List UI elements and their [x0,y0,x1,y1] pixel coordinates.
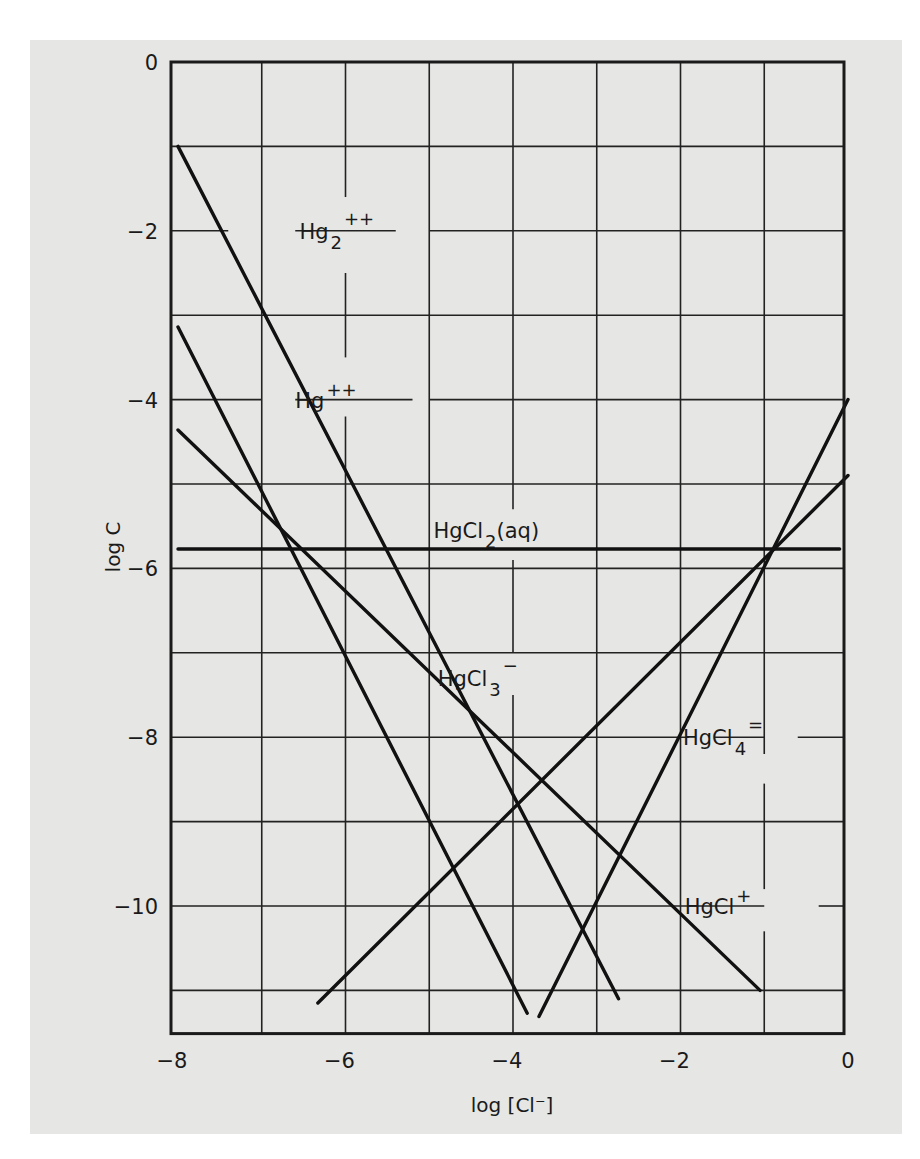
x-tick-label: −2 [659,1049,690,1073]
y-tick-label: 0 [145,51,158,75]
x-tick-label: −8 [157,1049,188,1073]
x-tick-label: −4 [492,1049,523,1073]
y-axis-ticks: 0−2−4−6−8−10 [114,51,158,919]
series-label-hgcl-: HgCl+ [685,885,752,919]
y-tick-label: −2 [127,220,158,244]
y-axis-title: log C [101,522,125,573]
y-tick-label: −8 [127,726,158,750]
x-axis-title: log [Cl⁻] [471,1093,554,1117]
x-tick-label: −6 [324,1049,355,1073]
y-tick-label: −6 [127,557,158,581]
series-line-hg2- [178,146,619,998]
y-tick-label: −10 [114,895,158,919]
x-tick-label: 0 [841,1049,854,1073]
y-tick-label: −4 [127,389,158,413]
x-axis-ticks: −8−6−4−20 [157,1049,855,1073]
chart-canvas: Hg2++Hg++HgCl+HgCl2(aq)HgCl3−HgCl4= −8−6… [0,0,920,1159]
series-label-hg-: Hg++ [295,379,356,413]
